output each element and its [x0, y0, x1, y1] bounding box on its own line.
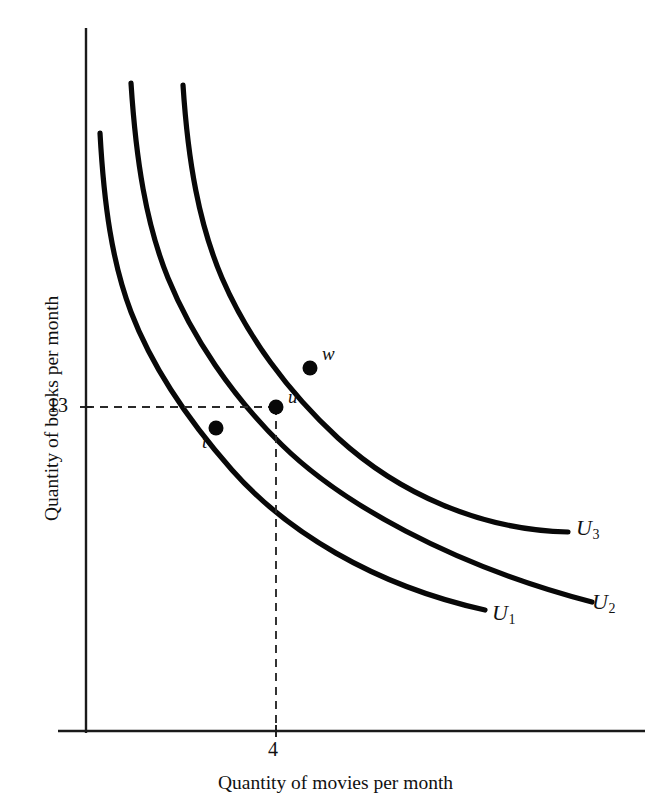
data-point-label-u: u [288, 386, 298, 408]
indifference-curve-figure: 13 4 Quantity of movies per month Quanti… [0, 0, 669, 808]
data-point-t [209, 421, 224, 436]
curve-label-u1-base: U [492, 600, 508, 625]
curve-label-u3-base: U [576, 515, 592, 540]
data-point-u [269, 400, 284, 415]
data-point-label-t: t [202, 431, 207, 453]
indifference-curve-u1 [100, 133, 485, 610]
indifference-curve-u2 [131, 83, 592, 602]
curve-label-u1-subscript: 1 [509, 612, 516, 627]
y-axis-title: Quantity of books per month [41, 296, 63, 521]
x-axis-tick-label-4: 4 [268, 738, 278, 761]
x-axis-title: Quantity of movies per month [218, 772, 453, 794]
curve-label-u3: U3 [576, 515, 599, 541]
curve-label-u2-base: U [592, 589, 608, 614]
data-point-label-w: w [322, 343, 335, 365]
curve-label-u1: U1 [492, 600, 515, 626]
curve-label-u2: U2 [592, 589, 615, 615]
data-point-w [303, 361, 318, 376]
indifference-curve-u3 [183, 85, 568, 532]
curve-label-u3-subscript: 3 [593, 527, 600, 542]
curve-label-u2-subscript: 2 [609, 601, 616, 616]
chart-canvas [0, 0, 669, 808]
